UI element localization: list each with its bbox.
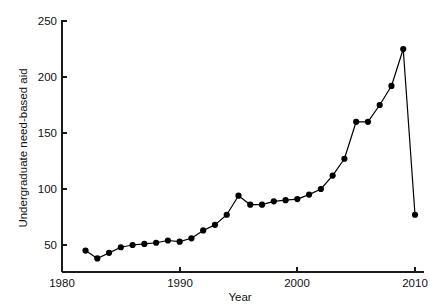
y-tick-label-50: 50 — [44, 239, 57, 251]
data-point — [165, 237, 171, 243]
series-line-undergraduate-need-based-aid — [86, 49, 415, 258]
line-chart: 250 200 150 100 50 Undergraduate need-ba… — [0, 0, 430, 307]
data-point — [365, 119, 371, 125]
data-point — [118, 244, 124, 250]
data-point — [188, 235, 194, 241]
y-axis-ticks — [62, 21, 67, 245]
data-point — [235, 193, 241, 199]
data-point — [377, 102, 383, 108]
data-point — [412, 212, 418, 218]
y-axis: 250 200 150 100 50 Undergraduate need-ba… — [17, 15, 67, 272]
data-point — [200, 227, 206, 233]
data-point — [330, 172, 336, 178]
data-point — [259, 202, 265, 208]
x-axis-tick-labels: 1980 1990 2000 2010 — [49, 277, 428, 289]
y-axis-title: Undergraduate need-based aid — [17, 68, 29, 227]
data-point — [141, 241, 147, 247]
data-point — [153, 240, 159, 246]
data-point — [177, 239, 183, 245]
data-point — [212, 222, 218, 228]
x-tick-label-1980: 1980 — [49, 277, 75, 289]
y-tick-label-250: 250 — [38, 15, 57, 27]
data-point — [388, 83, 394, 89]
series-points-undergraduate-need-based-aid — [82, 46, 418, 262]
data-point — [130, 242, 136, 248]
data-point — [106, 250, 112, 256]
y-tick-label-100: 100 — [38, 183, 57, 195]
x-tick-label-1990: 1990 — [167, 277, 193, 289]
data-point — [271, 198, 277, 204]
x-axis-title: Year — [228, 291, 251, 303]
data-point — [224, 212, 230, 218]
data-point — [247, 202, 253, 208]
data-point — [318, 186, 324, 192]
series-group — [82, 46, 418, 262]
x-axis: 1980 1990 2000 2010 Year — [49, 267, 428, 303]
data-point — [294, 196, 300, 202]
data-point — [306, 192, 312, 198]
y-tick-label-200: 200 — [38, 71, 57, 83]
x-tick-label-2010: 2010 — [402, 277, 428, 289]
data-point — [353, 119, 359, 125]
data-point — [282, 197, 288, 203]
chart-container: 250 200 150 100 50 Undergraduate need-ba… — [0, 0, 430, 307]
data-point — [94, 255, 100, 261]
data-point — [341, 156, 347, 162]
x-tick-label-2000: 2000 — [284, 277, 310, 289]
x-axis-ticks — [62, 267, 415, 272]
data-point — [400, 46, 406, 52]
data-point — [82, 248, 88, 254]
y-axis-tick-labels: 250 200 150 100 50 — [38, 15, 57, 251]
y-tick-label-150: 150 — [38, 127, 57, 139]
